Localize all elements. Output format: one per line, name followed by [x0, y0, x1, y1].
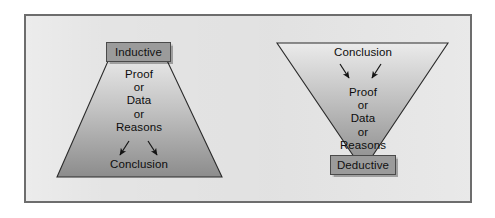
inductive-evidence-line-3: Data	[96, 94, 182, 107]
inductive-title-box: Inductive	[106, 42, 171, 62]
deductive-evidence-line-2: or	[318, 99, 408, 112]
diagram-shapes-layer	[0, 0, 495, 218]
deductive-evidence-line-4: or	[318, 126, 408, 139]
deductive-evidence-line-5: Reasons	[318, 139, 408, 152]
inductive-evidence-line-1: Proof	[96, 68, 182, 81]
deductive-title-label: Deductive	[337, 159, 389, 171]
inductive-evidence-line-2: or	[96, 81, 182, 94]
inductive-evidence-line-5: Reasons	[96, 121, 182, 134]
deductive-evidence-stack: Proof or Data or Reasons	[318, 86, 408, 152]
inductive-conclusion-label: Conclusion	[96, 158, 182, 170]
deductive-conclusion-label: Conclusion	[318, 46, 408, 58]
deductive-title-box: Deductive	[330, 155, 396, 175]
inductive-evidence-line-4: or	[96, 108, 182, 121]
inductive-title-label: Inductive	[115, 46, 162, 58]
deductive-evidence-line-3: Data	[318, 112, 408, 125]
deductive-evidence-line-1: Proof	[318, 86, 408, 99]
inductive-evidence-stack: Proof or Data or Reasons	[96, 68, 182, 134]
